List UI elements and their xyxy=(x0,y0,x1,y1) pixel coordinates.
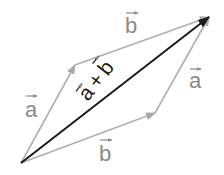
vector-addition-diagram: a b a b a + b xyxy=(0,0,224,175)
label-b-top: b xyxy=(125,13,138,38)
vector-a-right xyxy=(155,17,209,113)
svg-text:a: a xyxy=(25,97,38,122)
vector-b-bottom xyxy=(21,113,155,163)
label-a-left: a xyxy=(25,96,38,122)
label-b-bottom: b xyxy=(99,140,112,166)
label-sum: a + b xyxy=(72,55,118,104)
vector-sum-resultant xyxy=(21,17,209,163)
svg-text:b: b xyxy=(99,141,111,166)
svg-text:b: b xyxy=(125,13,137,38)
svg-text:a: a xyxy=(189,68,202,93)
vector-b-top xyxy=(75,17,209,65)
label-a-right: a xyxy=(189,68,202,93)
